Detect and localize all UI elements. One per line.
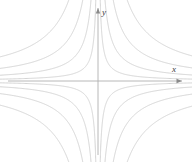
hyperbola-curve bbox=[111, 0, 192, 70]
hyperbola-curve bbox=[111, 92, 192, 162]
hyperbola-curve bbox=[104, 0, 192, 76]
hyperbola-curve bbox=[123, 0, 192, 59]
hyperbola-curve bbox=[0, 0, 73, 59]
hyperbola-curve bbox=[0, 86, 92, 162]
x-axis-label: x bbox=[171, 64, 176, 74]
y-axis-arrow-icon bbox=[96, 8, 100, 14]
hyperbola-curve bbox=[0, 83, 96, 162]
hyperbola-curve bbox=[100, 83, 192, 162]
axis-group bbox=[8, 8, 182, 155]
hyperbola-curve bbox=[0, 0, 92, 76]
hyperbola-curve bbox=[0, 0, 96, 79]
hyperbola-curve bbox=[123, 103, 192, 162]
hyperbola-curve bbox=[104, 86, 192, 162]
y-axis-label: y bbox=[101, 7, 106, 17]
hyperbola-curve bbox=[0, 103, 73, 162]
hyperbola-curve bbox=[100, 0, 192, 79]
hyperbola-figure: x y bbox=[0, 0, 192, 162]
x-axis-arrow-icon bbox=[177, 79, 183, 83]
plot-canvas: x y bbox=[0, 0, 192, 162]
